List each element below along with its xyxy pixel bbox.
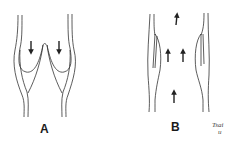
panel-a-arrows: [31, 41, 59, 52]
signature-line-2: u: [212, 129, 223, 136]
panel-a-label: A: [40, 122, 49, 136]
panel-b-arrows: [168, 15, 183, 103]
up-arrow-icon: [176, 15, 177, 25]
panel-a-closed-valve: [14, 14, 75, 117]
valve-diagram: [0, 0, 244, 150]
panel-b-open-valve: [148, 13, 210, 112]
panel-b-label: B: [171, 120, 180, 134]
artist-signature: Tsai u: [212, 122, 223, 136]
